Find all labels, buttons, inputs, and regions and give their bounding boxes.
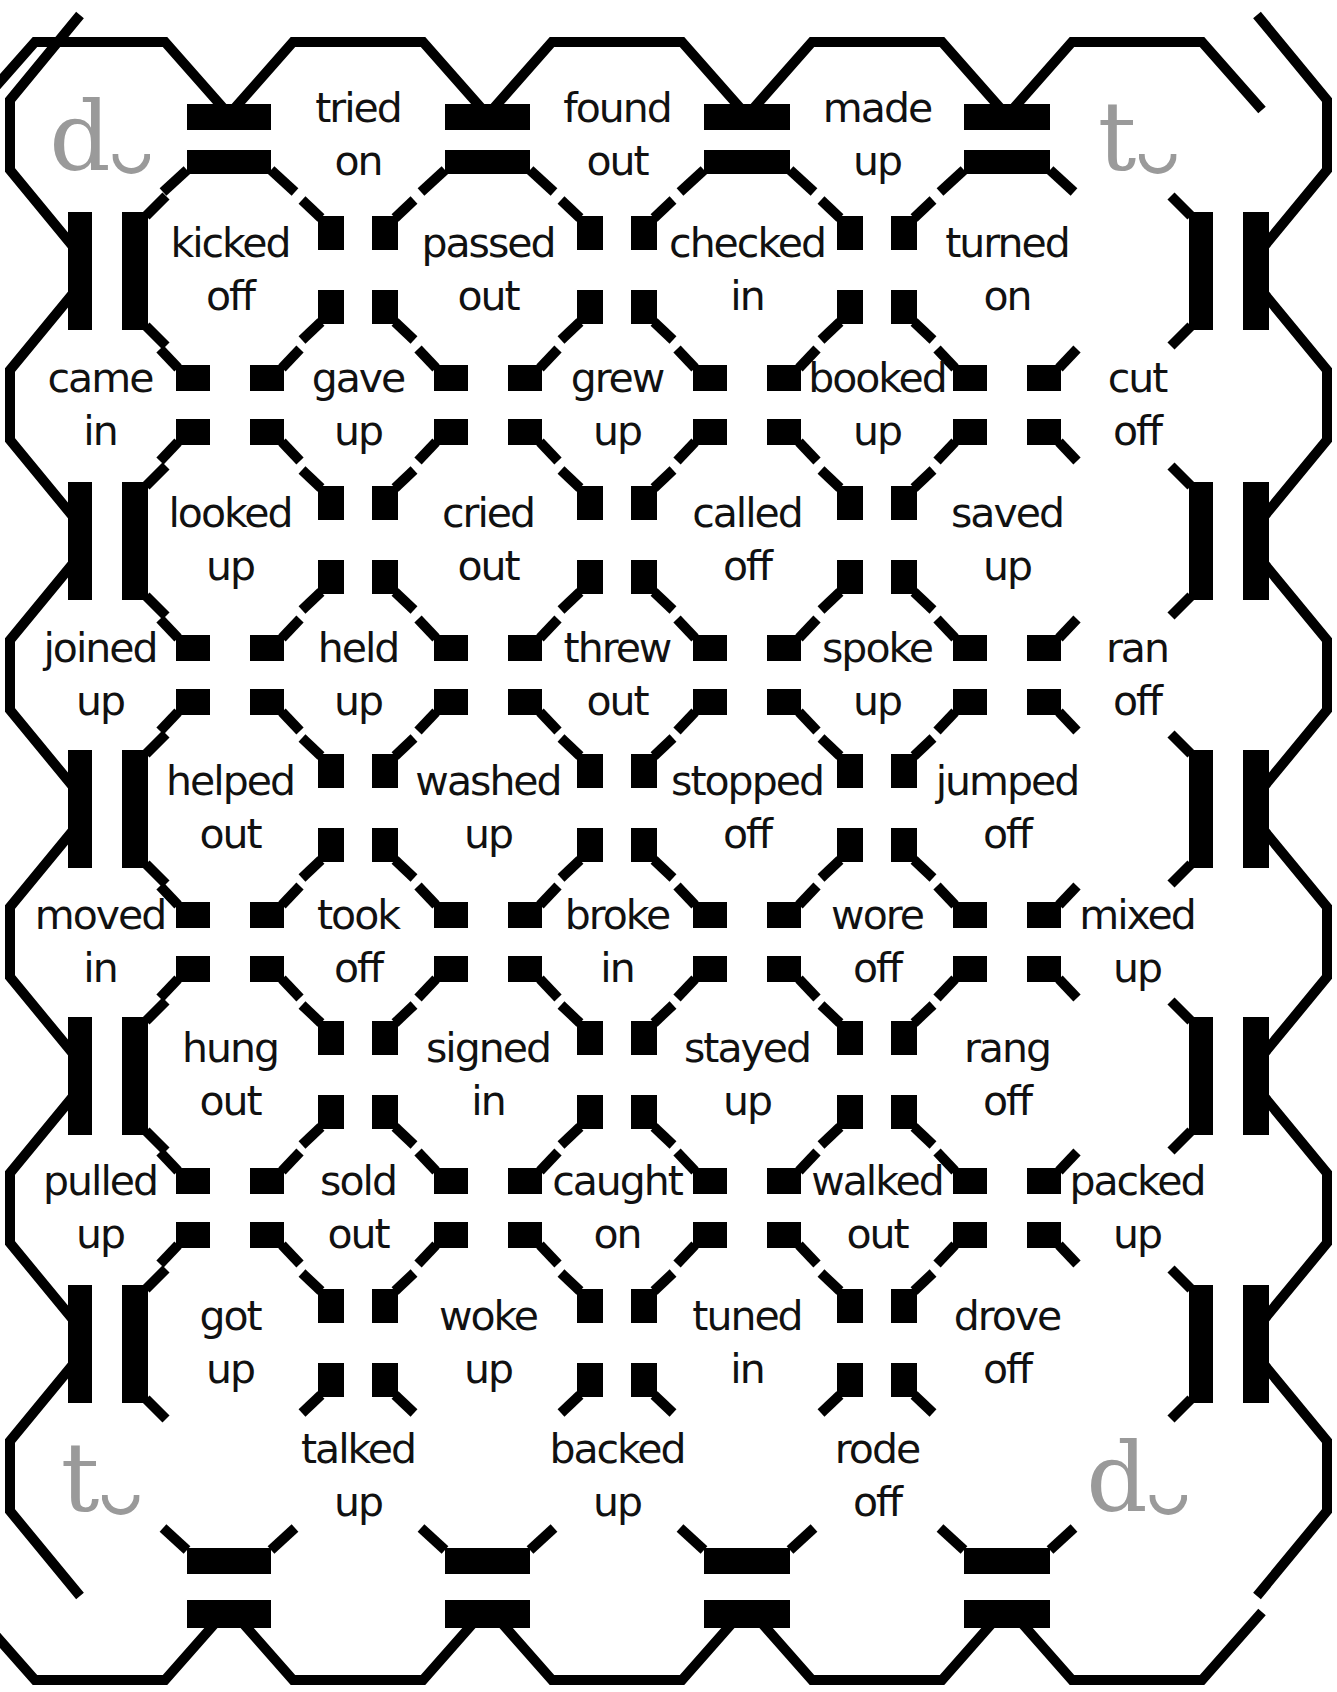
board-cell[interactable]: talkedup xyxy=(301,1423,415,1529)
x-connector-horizontal xyxy=(937,619,1077,731)
board-cell[interactable]: threwout xyxy=(564,622,671,728)
cell-particle: out xyxy=(421,270,554,323)
cell-particle: off xyxy=(317,942,399,995)
board-cell[interactable]: washedup xyxy=(415,755,560,861)
top-bridge-flare xyxy=(1050,170,1074,192)
cell-particle: up xyxy=(1069,1208,1204,1261)
cell-particle: in xyxy=(48,405,153,458)
board-cell[interactable]: criedout xyxy=(442,487,534,593)
bottom-bridge-lower xyxy=(964,1600,1050,1628)
bottom-bridge-flare xyxy=(1050,1528,1074,1550)
board-cell[interactable]: stoppedoff xyxy=(671,755,823,861)
board-cell[interactable]: lookedup xyxy=(168,487,291,593)
board-cell[interactable]: mixedup xyxy=(1079,889,1195,995)
cell-particle: out xyxy=(811,1208,943,1261)
left-bridge-outer xyxy=(68,750,92,868)
board-cell[interactable]: woreoff xyxy=(831,889,923,995)
board-cell[interactable]: movedin xyxy=(35,889,166,995)
x-connector-horizontal xyxy=(677,619,817,731)
right-bridge-outer xyxy=(1189,1285,1213,1403)
board-cell[interactable]: stayedup xyxy=(684,1022,810,1128)
board-cell[interactable]: bookedup xyxy=(808,352,946,458)
cell-verb: moved xyxy=(35,889,166,942)
board-cell[interactable]: turnedon xyxy=(945,217,1068,323)
cell-verb: called xyxy=(692,487,802,540)
top-bridge-lower xyxy=(704,150,790,174)
board-cell[interactable]: heldup xyxy=(318,622,399,728)
top-bridge-flare xyxy=(940,170,964,192)
left-bridge-flare xyxy=(146,1001,166,1021)
cell-verb: backed xyxy=(549,1423,684,1476)
cell-verb: spoke xyxy=(822,622,932,675)
right-bridge-flare xyxy=(1171,1269,1191,1289)
board-cell[interactable]: tookoff xyxy=(317,889,399,995)
board-cell[interactable]: joinedup xyxy=(43,622,156,728)
cell-verb: grew xyxy=(571,352,664,405)
left-bridge-flare xyxy=(146,596,166,616)
left-bridge-flare xyxy=(146,466,166,486)
board-cell[interactable]: tunedin xyxy=(692,1290,801,1396)
cell-particle: up xyxy=(823,135,931,188)
board-cell[interactable]: soldout xyxy=(320,1155,396,1261)
board-cell[interactable]: triedon xyxy=(315,82,401,188)
board-cell[interactable]: brokein xyxy=(565,889,670,995)
cell-verb: cut xyxy=(1108,352,1167,405)
right-bridge-inner xyxy=(1243,750,1269,868)
top-bridge-flare xyxy=(421,170,445,192)
right-bridge-outer xyxy=(1189,482,1213,600)
board-cell[interactable]: packedup xyxy=(1069,1155,1204,1261)
board-cell[interactable]: backedup xyxy=(549,1423,684,1529)
right-bridge-outer xyxy=(1189,1017,1213,1135)
cell-particle: out xyxy=(563,135,671,188)
top-bridge-flare xyxy=(271,170,295,192)
cell-particle: off xyxy=(1106,675,1168,728)
right-bridge-flare xyxy=(1171,596,1191,616)
board-cell[interactable]: helpedout xyxy=(166,755,294,861)
board-cell[interactable]: ranoff xyxy=(1106,622,1168,728)
board-cell[interactable]: foundout xyxy=(563,82,671,188)
board-cell[interactable]: checkedin xyxy=(669,217,825,323)
board-cell[interactable]: spokeup xyxy=(822,622,932,728)
board-cell[interactable]: cutoff xyxy=(1108,352,1167,458)
board-cell[interactable]: hungout xyxy=(182,1022,278,1128)
x-connector-horizontal xyxy=(418,619,558,731)
board-cell[interactable]: droveoff xyxy=(954,1290,1061,1396)
board-cell[interactable]: walkedout xyxy=(811,1155,943,1261)
left-bridge-inner xyxy=(122,212,148,330)
board-cell[interactable]: rangoff xyxy=(964,1022,1050,1128)
x-connector-vertical xyxy=(821,200,933,340)
board-cell[interactable]: kickedoff xyxy=(170,217,289,323)
cell-verb: mixed xyxy=(1079,889,1195,942)
cell-particle: in xyxy=(692,1343,801,1396)
cell-verb: passed xyxy=(421,217,554,270)
top-bridge-lower xyxy=(445,150,530,174)
cell-particle: on xyxy=(315,135,401,188)
x-connector-vertical xyxy=(821,470,933,610)
bottom-bridge-upper xyxy=(187,1548,271,1574)
board-cell[interactable]: signedin xyxy=(426,1022,550,1128)
board-cell[interactable]: madeup xyxy=(823,82,931,188)
board-cell[interactable]: gaveup xyxy=(312,352,405,458)
board-cell[interactable]: gotup xyxy=(199,1290,260,1396)
board-cell[interactable]: caughton xyxy=(552,1155,682,1261)
board-cell[interactable]: calledoff xyxy=(692,487,802,593)
right-bridge-flare xyxy=(1171,466,1191,486)
board-cell[interactable]: passedout xyxy=(421,217,554,323)
board-cell[interactable]: grewup xyxy=(571,352,664,458)
right-bridge-flare xyxy=(1171,326,1191,346)
board-cell[interactable]: wokeup xyxy=(439,1290,537,1396)
board-cell[interactable]: camein xyxy=(48,352,153,458)
cell-verb: tuned xyxy=(692,1290,801,1343)
cell-particle: off xyxy=(692,540,802,593)
board-cell[interactable]: jumpedoff xyxy=(936,755,1079,861)
board-cell[interactable]: pulledup xyxy=(43,1155,157,1261)
x-connector-horizontal xyxy=(937,1152,1077,1264)
bottom-bridge-upper xyxy=(704,1548,790,1574)
board-cell[interactable]: rodeoff xyxy=(835,1423,919,1529)
cell-particle: up xyxy=(312,405,405,458)
bottom-bridge-flare xyxy=(680,1528,704,1550)
left-bridge-outer xyxy=(68,482,92,600)
board-cell[interactable]: savedup xyxy=(951,487,1063,593)
cell-particle: up xyxy=(168,540,291,593)
bottom-bridge-upper xyxy=(964,1548,1050,1574)
